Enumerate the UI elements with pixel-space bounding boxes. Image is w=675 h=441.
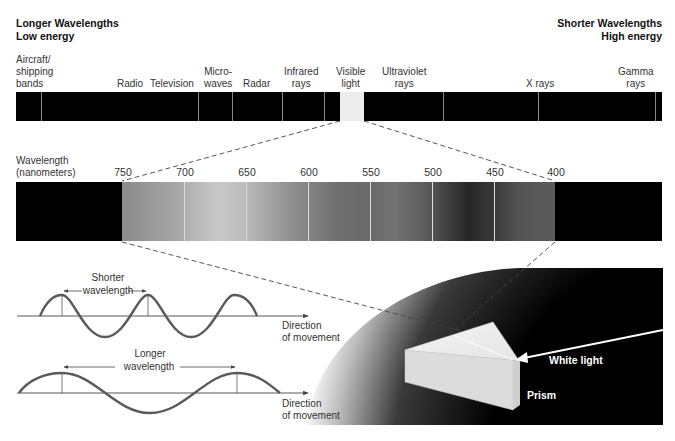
shorter-label-line2: wavelength: [80, 285, 136, 297]
long-wave-diagram: [17, 367, 308, 413]
long-wave-direction: Direction of movement: [282, 398, 340, 422]
white-light-label: White light: [549, 354, 603, 366]
direction-line: of movement: [282, 332, 340, 344]
shorter-label-line1: Shorter: [88, 272, 128, 284]
longer-label-line1: Longer: [130, 348, 170, 360]
longer-label-line2: wavelength: [120, 361, 178, 373]
short-wave-direction: Direction of movement: [282, 320, 340, 344]
diagram-graphics: [0, 0, 675, 441]
direction-line: of movement: [282, 410, 340, 422]
direction-line: Direction: [282, 320, 340, 332]
direction-line: Direction: [282, 398, 340, 410]
short-wave-diagram: [17, 291, 308, 337]
prism-label: Prism: [527, 389, 556, 401]
